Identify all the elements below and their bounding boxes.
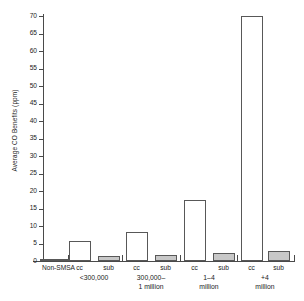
- y-tick-50: 50: [0, 86, 43, 87]
- group-separator-3: [237, 255, 238, 262]
- group-label-line2: million: [199, 283, 218, 292]
- y-tick-mark: [39, 191, 43, 192]
- y-tick-label: 5: [33, 239, 37, 247]
- y-tick-20: 20: [0, 191, 43, 192]
- y-tick-5: 5: [0, 244, 43, 245]
- y-tick-35: 35: [0, 139, 43, 140]
- group-separator-4: [294, 255, 295, 262]
- y-tick-label: 10: [30, 222, 37, 230]
- y-tick-mark: [39, 86, 43, 87]
- y-tick-mark: [39, 139, 43, 140]
- x-label-lt300k-sub: sub: [103, 264, 114, 272]
- y-tick-label: 70: [30, 12, 37, 20]
- x-group-label-lt300k: <300,000: [80, 274, 109, 283]
- x-label-300k-1m-cc: cc: [133, 264, 140, 272]
- bar-1-4m-sub: [213, 253, 235, 261]
- y-tick-55: 55: [0, 69, 43, 70]
- y-tick-mark: [39, 156, 43, 157]
- group-label-line1: <300,000: [80, 274, 109, 283]
- y-tick-mark: [39, 51, 43, 52]
- bar-chart: Average CO Benefits (ppm) 05101520253035…: [0, 0, 304, 301]
- group-label-line2: million: [255, 283, 274, 292]
- group-label-line1: +4: [255, 274, 274, 283]
- y-tick-mark: [39, 209, 43, 210]
- bar-300k-1m-sub: [155, 255, 177, 261]
- y-tick-label: 50: [30, 82, 37, 90]
- y-tick-mark: [39, 104, 43, 105]
- y-axis-title-text: Average CO Benefits (ppm): [11, 89, 18, 171]
- x-label-plus4m-cc: cc: [248, 264, 255, 272]
- y-tick-70: 70: [0, 16, 43, 17]
- x-group-label-plus4m: +4million: [255, 274, 274, 291]
- y-tick-mark: [39, 261, 43, 262]
- y-tick-label: 40: [30, 117, 37, 125]
- y-tick-label: 20: [30, 187, 37, 195]
- y-tick-25: 25: [0, 174, 43, 175]
- y-tick-mark: [39, 121, 43, 122]
- y-tick-label: 15: [30, 204, 37, 212]
- y-tick-label: 25: [30, 169, 37, 177]
- y-axis-line: [43, 14, 44, 262]
- y-tick-45: 45: [0, 104, 43, 105]
- x-label-1-4m-cc: cc: [191, 264, 198, 272]
- bar-lt300k-sub: [98, 256, 120, 261]
- y-axis-title: Average CO Benefits (ppm): [7, 0, 21, 261]
- y-tick-mark: [39, 34, 43, 35]
- y-tick-60: 60: [0, 51, 43, 52]
- bar-plus4m-sub: [268, 251, 290, 261]
- x-label-300k-1m-sub: sub: [160, 264, 171, 272]
- x-group-label-1-4m: 1–4million: [199, 274, 218, 291]
- x-label-lt300k-cc: cc: [76, 264, 83, 272]
- x-group-label-300k-1m: 300,000–1 million: [137, 274, 165, 291]
- y-tick-label: 30: [30, 152, 37, 160]
- y-tick-10: 10: [0, 226, 43, 227]
- x-label-non-smsa: Non-SMSA: [42, 264, 75, 272]
- bar-1-4m-cc: [184, 200, 206, 261]
- y-tick-0: 0: [0, 261, 43, 262]
- group-label-line2: 1 million: [137, 283, 165, 292]
- y-tick-label: 0: [33, 257, 37, 265]
- group-separator-1: [122, 255, 123, 262]
- y-tick-65: 65: [0, 34, 43, 35]
- y-tick-label: 60: [30, 47, 37, 55]
- y-tick-mark: [39, 244, 43, 245]
- y-tick-mark: [39, 69, 43, 70]
- y-tick-mark: [39, 174, 43, 175]
- x-label-1-4m-sub: sub: [218, 264, 229, 272]
- y-tick-40: 40: [0, 121, 43, 122]
- group-label-line1: 300,000–: [137, 274, 165, 283]
- y-tick-label: 35: [30, 134, 37, 142]
- bar-lt300k-cc: [69, 241, 91, 261]
- group-label-line1: 1–4: [199, 274, 218, 283]
- y-tick-mark: [39, 16, 43, 17]
- y-tick-label: 45: [30, 99, 37, 107]
- y-tick-label: 65: [30, 29, 37, 37]
- y-tick-mark: [39, 226, 43, 227]
- group-separator-2: [180, 255, 181, 262]
- y-tick-30: 30: [0, 156, 43, 157]
- bar-300k-1m-cc: [126, 232, 148, 261]
- x-axis-line: [33, 261, 295, 262]
- y-tick-label: 55: [30, 64, 37, 72]
- x-label-plus4m-sub: sub: [273, 264, 284, 272]
- bar-plus4m-cc: [241, 16, 263, 261]
- y-tick-15: 15: [0, 209, 43, 210]
